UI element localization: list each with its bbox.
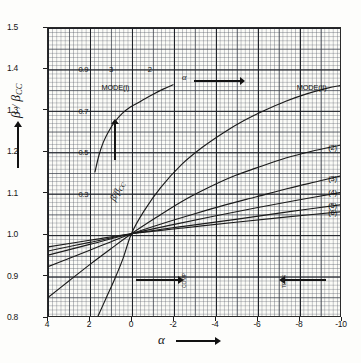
curve-2 bbox=[48, 145, 340, 297]
top-alpha-arrow-icon bbox=[194, 80, 240, 82]
top-scale-label: 3 bbox=[109, 65, 113, 74]
top-scale-label: 2 bbox=[148, 65, 152, 74]
x-tick-mark bbox=[173, 317, 174, 321]
curve-label: (3) bbox=[328, 174, 336, 183]
curve-label: (2) bbox=[328, 143, 336, 152]
curve-4 bbox=[48, 193, 340, 256]
y-tick-label: 1.1 bbox=[0, 188, 18, 198]
curve-label: (6) bbox=[328, 208, 336, 217]
plot-area: β/βCC α 0.90.70.50.3 32 MODE(I)MODE(II) … bbox=[47, 27, 341, 317]
inner-axis-arrow-icon bbox=[114, 124, 116, 160]
x-tick-mark bbox=[131, 317, 132, 321]
curve-3 bbox=[48, 176, 340, 267]
x-tick-mark bbox=[47, 317, 48, 321]
curve-modei bbox=[95, 85, 173, 172]
x-tick-mark bbox=[257, 317, 258, 321]
y-tick-label: 0.9 bbox=[0, 271, 18, 281]
inner-scale-label: 0.7 bbox=[78, 107, 88, 116]
y-tick-label: 1.0 bbox=[0, 229, 18, 239]
y-tick-label: 1.4 bbox=[0, 63, 18, 73]
y-tick-label: 1.5 bbox=[0, 22, 18, 32]
inner-scale-label: 0.9 bbox=[78, 65, 88, 74]
mode-label: MODE(II) bbox=[297, 83, 327, 92]
mode-label: MODE(I) bbox=[102, 83, 130, 92]
x-axis-title: α bbox=[158, 332, 165, 348]
top-alpha-label: α bbox=[182, 72, 186, 82]
compression-arrow-right-text: COMP bbox=[181, 274, 187, 289]
x-tick-mark bbox=[341, 317, 342, 321]
curve-layer bbox=[48, 28, 340, 316]
tension-arrow-left-text: TENS bbox=[281, 275, 287, 288]
inner-scale-label: 0.5 bbox=[78, 148, 88, 157]
tension-arrow-left-icon bbox=[284, 279, 326, 281]
x-tick-mark bbox=[299, 317, 300, 321]
curve-label: (4) bbox=[328, 188, 336, 197]
x-tick-mark bbox=[215, 317, 216, 321]
y-tick-label: 1.3 bbox=[0, 105, 18, 115]
y-tick-label: 0.8 bbox=[0, 312, 18, 322]
x-axis-arrow-icon bbox=[176, 340, 216, 342]
compression-arrow-right-icon bbox=[136, 279, 178, 281]
y-tick-label: 1.2 bbox=[0, 146, 18, 156]
y-axis-title-subscript: CC bbox=[14, 84, 24, 95]
x-tick-mark bbox=[89, 317, 90, 321]
chart-figure: β / βCC α 1.51.41.31.21.11.00.90.8 420-2… bbox=[0, 0, 361, 363]
inner-scale-label: 0.3 bbox=[78, 190, 88, 199]
curve-modeii bbox=[98, 86, 340, 316]
